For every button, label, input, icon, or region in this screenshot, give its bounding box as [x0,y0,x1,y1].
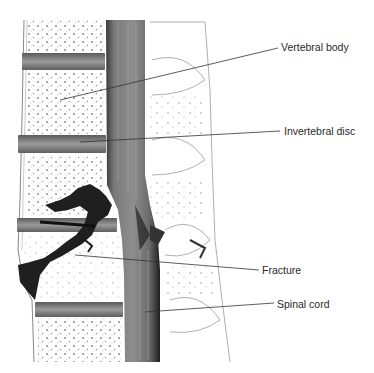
spine-illustration [0,0,374,373]
leader-line-spinal-cord [145,303,274,312]
label-invertebral-disc: Invertebral disc [284,125,355,137]
label-spinal-cord: Spinal cord [277,298,330,310]
label-fracture: Fracture [262,264,301,276]
spine-diagram: Vertebral body Invertebral disc Fracture… [0,0,374,373]
label-vertebral-body: Vertebral body [281,41,349,53]
